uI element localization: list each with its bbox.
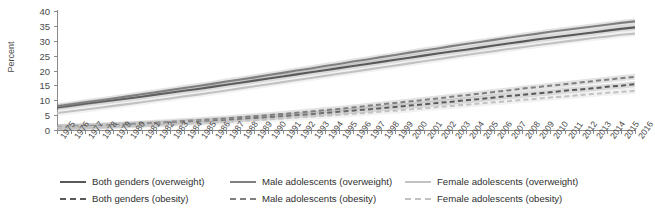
legend-item[interactable]: Female adolescents (overweight) [405,176,649,187]
y-tick-mark [54,115,57,116]
legend-swatch-icon [405,198,431,200]
legend-swatch-icon [405,181,431,183]
legend-item[interactable]: Male adolescents (overweight) [230,176,405,187]
legend-swatch-icon [230,198,256,200]
y-tick-label: 15 [39,80,50,91]
legend-label: Both genders (obesity) [92,193,189,204]
y-tick-label: 5 [45,110,50,121]
y-tick-label: 10 [39,95,50,106]
legend-item[interactable]: Both genders (overweight) [60,176,230,187]
y-tick-mark [54,85,57,86]
legend-label: Female adolescents (overweight) [437,176,578,187]
y-axis-tick-labels: 0510152025303540 [0,0,54,209]
y-tick-mark [54,11,57,12]
y-tick-mark [54,100,57,101]
legend-item[interactable]: Male adolescents (obesity) [230,193,405,204]
y-tick-label: 20 [39,65,50,76]
y-tick-mark [54,26,57,27]
legend-label: Male adolescents (overweight) [262,176,392,187]
legend-swatch-icon [60,181,86,183]
y-tick-label: 35 [39,20,50,31]
y-tick-mark [54,130,57,131]
y-tick-mark [54,71,57,72]
legend-label: Both genders (overweight) [92,176,205,187]
legend-item[interactable]: Both genders (obesity) [60,193,230,204]
chart-legend: Both genders (overweight)Male adolescent… [60,173,649,207]
y-tick-label: 30 [39,35,50,46]
y-tick-mark [54,41,57,42]
y-tick-label: 25 [39,50,50,61]
legend-item[interactable]: Female adolescents (obesity) [405,193,649,204]
legend-label: Female adolescents (obesity) [437,193,562,204]
plot-series-area [57,11,635,130]
legend-label: Male adolescents (obesity) [262,193,376,204]
x-axis-tick-labels: 1975197619771978197919801981198219831984… [0,133,649,169]
y-tick-label: 40 [39,6,50,17]
legend-swatch-icon [60,198,86,200]
y-tick-mark [54,56,57,57]
legend-swatch-icon [230,181,256,183]
